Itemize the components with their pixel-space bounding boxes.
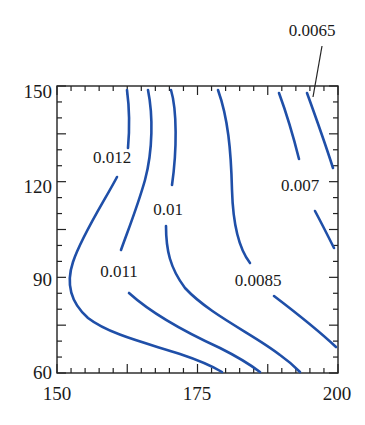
contour-0.0085-lower bbox=[274, 296, 336, 347]
contour-0.012-lower bbox=[70, 177, 222, 372]
contour-label-0.0085: 0.0085 bbox=[235, 271, 282, 290]
contour-0.0085-upper bbox=[218, 90, 250, 263]
contour-label-0.012: 0.012 bbox=[93, 148, 131, 167]
contour-0.007-upper bbox=[279, 93, 299, 159]
contour-0.01-upper bbox=[171, 90, 176, 185]
y-tick-150: 150 bbox=[24, 81, 53, 102]
contour-lines bbox=[70, 90, 336, 372]
contour-label-0.01: 0.01 bbox=[153, 200, 183, 219]
plot-frame bbox=[57, 86, 338, 373]
y-axis-ticks bbox=[57, 86, 338, 373]
contour-label-0.007: 0.007 bbox=[281, 176, 320, 195]
contour-label-0.0065: 0.0065 bbox=[289, 21, 336, 40]
x-tick-200: 200 bbox=[323, 383, 352, 404]
y-tick-60: 60 bbox=[33, 362, 52, 383]
leader-line-0.0065 bbox=[313, 46, 322, 97]
x-tick-175: 175 bbox=[183, 383, 212, 404]
contour-0.012-upper bbox=[127, 90, 129, 148]
contour-0.0065 bbox=[307, 93, 333, 168]
contour-chart: 0.0065 0.012 0.011 0.01 0.0085 0.007 150… bbox=[0, 0, 365, 425]
contour-label-0.011: 0.011 bbox=[100, 262, 138, 281]
y-tick-90: 90 bbox=[33, 269, 52, 290]
x-tick-150: 150 bbox=[43, 383, 72, 404]
y-tick-120: 120 bbox=[24, 176, 53, 197]
contour-0.011-upper bbox=[121, 90, 151, 250]
x-axis-ticks bbox=[57, 86, 338, 373]
